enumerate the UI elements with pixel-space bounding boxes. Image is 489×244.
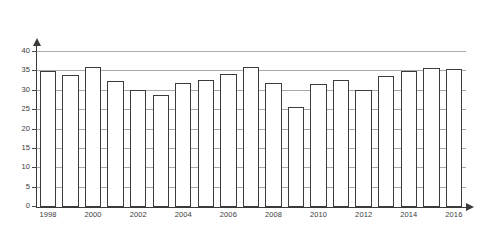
bar-2003[interactable] — [153, 95, 169, 207]
bar-2009[interactable] — [288, 107, 304, 207]
bar-2015[interactable] — [423, 68, 439, 206]
bar-2010[interactable] — [310, 84, 326, 206]
x-axis-label-2016: 2016 — [434, 210, 474, 219]
bar-1999[interactable] — [62, 75, 78, 207]
x-axis-label-2000: 2000 — [73, 210, 113, 219]
x-axis-label-1998: 1998 — [28, 210, 68, 219]
bar-series — [0, 0, 489, 244]
bar-2004[interactable] — [175, 83, 191, 206]
x-axis-label-2012: 2012 — [344, 210, 384, 219]
bar-2002[interactable] — [130, 90, 146, 206]
x-axis-label-2006: 2006 — [208, 210, 248, 219]
bar-2006[interactable] — [220, 74, 236, 207]
bar-2012[interactable] — [355, 90, 371, 207]
bar-2005[interactable] — [198, 80, 214, 206]
x-axis-label-2004: 2004 — [163, 210, 203, 219]
bar-2000[interactable] — [85, 67, 101, 207]
x-axis-label-2002: 2002 — [118, 210, 158, 219]
bar-2008[interactable] — [265, 83, 281, 207]
bar-2001[interactable] — [107, 81, 123, 207]
x-axis-label-2008: 2008 — [253, 210, 293, 219]
x-axis-label-2010: 2010 — [299, 210, 339, 219]
bar-2014[interactable] — [401, 71, 417, 207]
bar-2013[interactable] — [378, 76, 394, 206]
bar-chart: 0510152025303540 19982000200220042006200… — [0, 0, 489, 244]
bar-1998[interactable] — [40, 71, 56, 206]
bar-2007[interactable] — [243, 67, 259, 207]
bar-2016[interactable] — [446, 69, 462, 207]
x-axis-label-2014: 2014 — [389, 210, 429, 219]
bar-2011[interactable] — [333, 80, 349, 207]
